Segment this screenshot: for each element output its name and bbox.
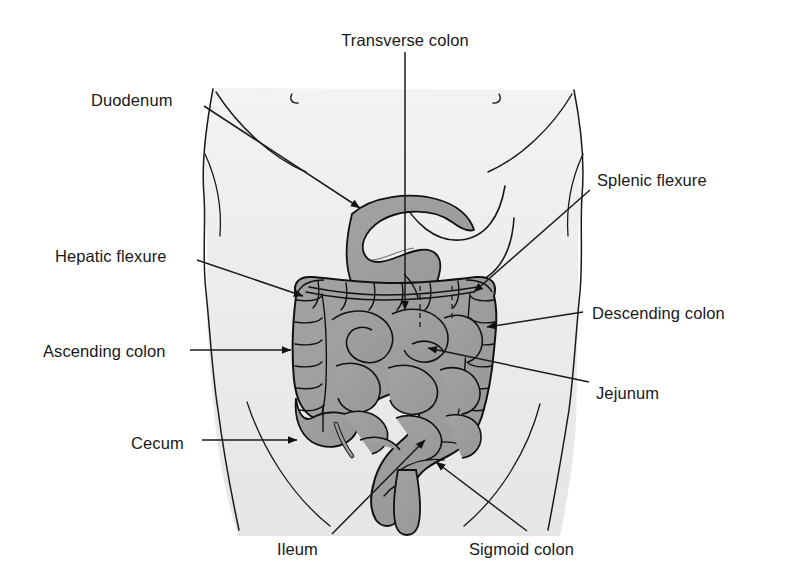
- label-ascending-colon: Ascending colon: [43, 343, 166, 360]
- label-transverse-colon: Transverse colon: [341, 32, 469, 49]
- label-jejunum: Jejunum: [596, 385, 659, 402]
- label-splenic-flexure: Splenic flexure: [597, 172, 707, 189]
- label-sigmoid-colon: Sigmoid colon: [469, 541, 574, 558]
- rectum: [394, 470, 420, 535]
- label-cecum: Cecum: [131, 435, 184, 452]
- anatomy-illustration: [0, 0, 787, 579]
- label-ileum: Ileum: [277, 541, 318, 558]
- label-descending-colon: Descending colon: [592, 305, 725, 322]
- label-hepatic-flexure: Hepatic flexure: [55, 248, 167, 265]
- label-duodenum: Duodenum: [91, 92, 173, 109]
